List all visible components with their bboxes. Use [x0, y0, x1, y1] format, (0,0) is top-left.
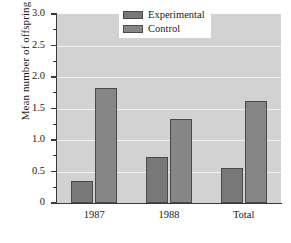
y-tick-label: 2.0	[5, 70, 45, 81]
bar-total-experimental	[221, 168, 243, 203]
y-tick-label: 1.5	[5, 102, 45, 113]
bar-1987-control	[95, 88, 117, 203]
y-tick-major	[51, 202, 57, 203]
y-tick-minor	[53, 187, 57, 188]
y-tick-minor	[53, 29, 57, 30]
legend-item-experimental: Experimental	[123, 8, 205, 21]
legend-swatch-control	[123, 25, 143, 33]
x-tick-label: Total	[209, 209, 279, 220]
bar-1987-experimental	[71, 181, 93, 203]
y-tick-minor	[53, 92, 57, 93]
y-tick-label: 2.5	[5, 39, 45, 50]
x-tick-label: 1988	[134, 209, 204, 220]
bar-chart-figure: Mean number of offspring 00.51.01.52.02.…	[0, 0, 291, 243]
legend-label-experimental: Experimental	[148, 9, 205, 20]
bar-1988-experimental	[146, 157, 168, 203]
y-tick-major	[51, 139, 57, 140]
y-tick-minor	[53, 124, 57, 125]
y-tick-label: 1.0	[5, 133, 45, 144]
y-tick-major	[51, 108, 57, 109]
y-tick-major	[51, 45, 57, 46]
legend-swatch-experimental	[123, 11, 143, 19]
y-tick-major	[51, 76, 57, 77]
bar-1988-control	[170, 119, 192, 203]
y-tick-label: 0.5	[5, 165, 45, 176]
y-tick-label: 3.0	[5, 7, 45, 18]
legend-label-control: Control	[148, 23, 180, 34]
y-tick-major	[51, 13, 57, 14]
y-tick-label: 0	[5, 196, 45, 207]
y-tick-minor	[53, 155, 57, 156]
legend-item-control: Control	[123, 22, 205, 35]
x-tick-label: 1987	[59, 209, 129, 220]
gridline	[57, 77, 281, 78]
y-tick-major	[51, 171, 57, 172]
y-tick-minor	[53, 61, 57, 62]
x-axis-line	[56, 203, 282, 204]
gridline	[57, 46, 281, 47]
chart-legend: Experimental Control	[119, 5, 211, 38]
bar-total-control	[245, 101, 267, 203]
